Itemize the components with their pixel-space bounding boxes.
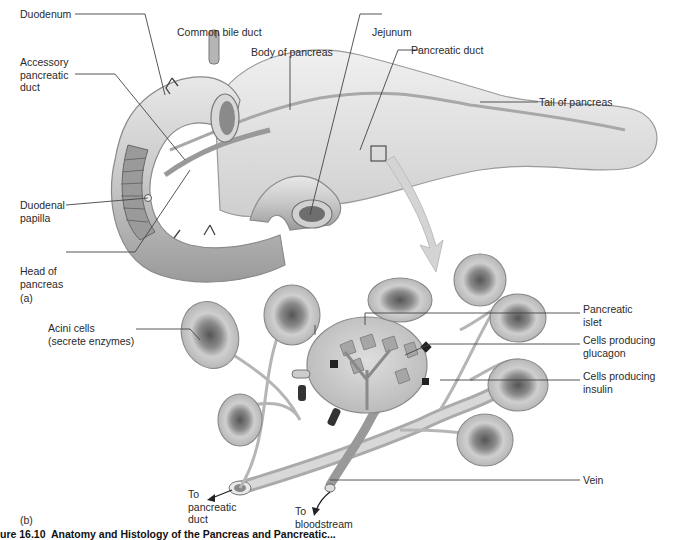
label-body-of-pancreas: Body of pancreas <box>251 46 333 59</box>
label-cells-producing-insulin: Cells producing insulin <box>583 370 655 395</box>
label-acini-cells: Acini cells (secrete enzymes) <box>48 322 134 347</box>
label-pancreatic-duct: Pancreatic duct <box>411 44 483 57</box>
pancreas-histology <box>172 254 548 516</box>
label-cells-producing-glucagon: Cells producing glucagon <box>583 334 655 359</box>
label-head-of-pancreas: Head of pancreas <box>20 265 63 290</box>
label-to-pancreatic-duct: To pancreatic duct <box>188 488 236 526</box>
label-pancreatic-islet: Pancreatic islet <box>583 303 633 328</box>
label-duodenum: Duodenum <box>20 8 71 21</box>
panel-marker-a: (a) <box>20 292 33 304</box>
label-jejunum: Jejunum <box>372 26 412 39</box>
panel-marker-b: (b) <box>20 514 33 526</box>
pancreas-anatomy-figure: Duodenum Accessory pancreatic duct Commo… <box>0 0 676 540</box>
label-to-bloodstream: To bloodstream <box>295 505 353 530</box>
label-common-bile-duct: Common bile duct <box>177 26 262 39</box>
illustration <box>0 0 676 540</box>
label-vein: Vein <box>583 474 603 487</box>
pancreas-gross <box>111 30 656 282</box>
label-accessory-pancreatic-duct: Accessory pancreatic duct <box>20 56 68 94</box>
figure-caption: ure 16.10 Anatomy and Histology of the P… <box>0 528 336 540</box>
label-duodenal-papilla: Duodenal papilla <box>20 199 65 224</box>
label-tail-of-pancreas: Tail of pancreas <box>539 96 613 109</box>
